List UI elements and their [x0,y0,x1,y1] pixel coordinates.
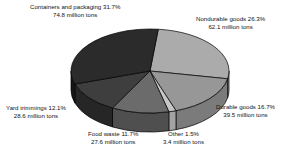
slice-label-line1: Other 1.5% [163,130,204,138]
slice-label-line2: 27.6 million tons [88,138,138,146]
pie-chart-figure: Containers and packaging 31.7% 74.8 mill… [0,0,305,154]
slice-label-line2: 39.5 million tons [216,111,275,119]
slice-label-line1: Containers and packaging 31.7% [30,3,120,11]
slice-label-food-waste: Food waste 11.7% 27.6 million tons [88,130,138,145]
slice-label-containers-and-packaging: Containers and packaging 31.7% 74.8 mill… [30,3,120,18]
slice-label-line1: Durable goods 16.7% [216,103,275,111]
slice-label-nondurable-goods: Nondurable goods 26.3% 62.1 million tons [196,15,265,30]
slice-label-line1: Yard trimmings 12.1% [6,104,66,112]
slice-label-line1: Food waste 11.7% [88,130,138,138]
slice-label-line2: 62.1 million tons [196,23,265,31]
slice-label-line1: Nondurable goods 26.3% [196,15,265,23]
slice-label-durable-goods: Durable goods 16.7% 39.5 million tons [216,103,275,118]
slice-label-line2: 3.4 million tons [163,138,204,146]
slice-label-line2: 74.8 million tons [30,11,120,19]
slice-label-other: Other 1.5% 3.4 million tons [163,130,204,145]
pie-slice-nondurable-goods [150,29,229,79]
slice-label-yard-trimmings: Yard trimmings 12.1% 28.6 million tons [6,104,66,119]
pie-slice-side-other [169,111,176,131]
slice-label-line2: 28.6 million tons [6,112,66,120]
pie-slices [71,29,229,113]
